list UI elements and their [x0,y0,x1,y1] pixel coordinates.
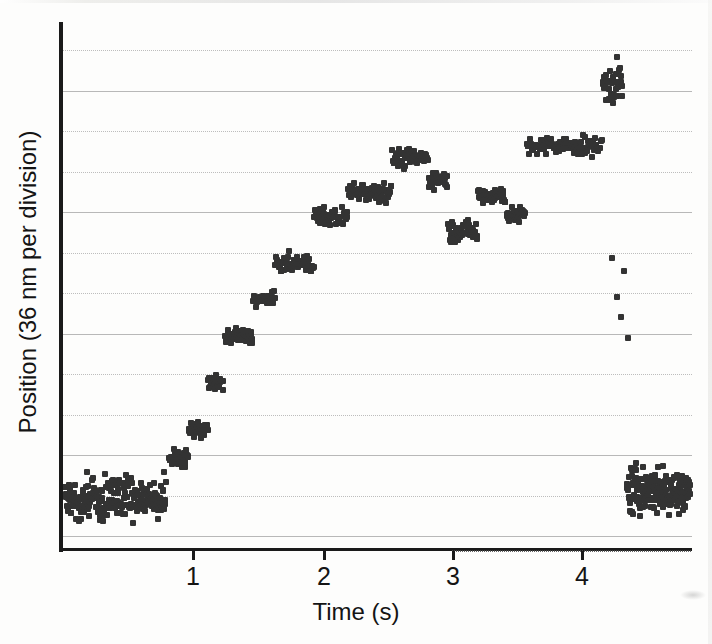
data-point [642,503,648,509]
gridline [62,536,692,538]
data-point [340,221,346,227]
data-point [90,475,96,481]
data-point [86,513,92,519]
data-point [72,482,78,488]
data-point [78,516,84,522]
data-point [502,199,508,205]
data-point [185,453,191,459]
data-point [687,482,693,488]
x-axis-tick [323,551,326,560]
data-point [130,520,136,526]
data-point [431,187,437,193]
gridline [62,455,692,457]
data-point [351,180,357,186]
data-point [640,464,646,470]
gridline [62,91,692,93]
data-point [161,469,167,475]
data-point [155,516,161,522]
data-point [85,483,91,489]
data-point [271,288,277,294]
x-axis-label: Time (s) [0,598,712,626]
x-axis-tick [452,551,455,560]
data-point [597,145,603,151]
data-point [311,264,317,270]
data-point [381,180,387,186]
gridline [62,172,692,174]
data-point [474,233,480,239]
x-axis-tick-label: 2 [304,561,344,591]
scan-artifact-right [708,0,712,644]
data-point [387,189,393,195]
data-point [160,487,166,493]
data-point [522,210,528,216]
data-point [142,508,148,514]
data-point [163,479,169,485]
gridline [62,374,692,376]
data-point [68,510,74,516]
gridline [62,415,692,417]
data-point [633,467,639,473]
data-point [388,183,394,189]
gridline [62,50,692,52]
data-point [619,93,625,99]
x-axis-tick-label: 3 [433,561,473,591]
data-point [205,427,211,433]
data-point [633,460,639,466]
data-point [321,204,327,210]
data-point [249,336,255,342]
data-point [444,173,450,179]
data-point [660,463,666,469]
data-point [151,480,157,486]
x-axis-tick-label: 1 [173,561,213,591]
data-point [100,518,106,524]
data-point [253,304,259,310]
y-axis-line [59,22,63,552]
data-point [473,221,479,227]
gridline [62,131,692,133]
data-point [383,200,389,206]
data-point [444,184,450,190]
data-point [618,314,624,320]
data-point [619,83,625,89]
data-point [543,151,549,157]
data-point [220,387,226,393]
x-axis-tick-label: 4 [562,561,602,591]
data-point [104,512,110,518]
gridline [62,293,692,295]
gridline [62,253,692,255]
data-point [306,256,312,262]
gridline [62,212,692,214]
data-point [161,506,167,512]
x-axis-tick [192,551,195,560]
x-axis-tick [581,551,584,560]
data-point [621,268,627,274]
data-point [630,511,636,517]
data-point [614,294,620,300]
data-point [687,491,693,497]
data-point [182,460,188,466]
data-point [129,480,135,486]
data-point [220,378,226,384]
data-point [201,432,207,438]
data-point [654,510,660,516]
data-point [614,54,620,60]
data-point [617,65,623,71]
data-point [344,209,350,215]
data-point [599,137,605,143]
data-point [610,100,616,106]
data-point [516,219,522,225]
data-point [122,511,128,517]
scan-artifact-top [0,0,712,3]
data-point [666,512,672,518]
data-point [425,157,431,163]
data-point [609,255,615,261]
data-point [589,154,595,160]
data-point [162,501,168,507]
figure-scatter-stepping-trace: 1234 Time (s) Position (36 nm per divisi… [0,0,712,644]
data-point [682,504,688,510]
gridline [62,334,692,336]
data-point [272,295,278,301]
data-point [637,513,643,519]
x-axis-hairline [452,550,692,552]
y-axis-label: Position (36 nm per division) [14,32,42,532]
